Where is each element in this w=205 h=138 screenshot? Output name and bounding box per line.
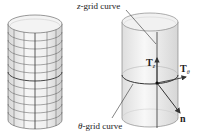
z-grid-curve-text: -grid curve	[81, 1, 121, 11]
ttheta-sub: θ	[187, 69, 190, 75]
tangent-theta-label: Tθ	[180, 64, 190, 75]
diagram-canvas	[0, 0, 205, 138]
tz-sub: z	[153, 63, 155, 69]
normal-label: n	[180, 114, 186, 124]
z-grid-curve-label: z-grid curve	[77, 2, 120, 11]
tz-main: T	[146, 57, 153, 68]
tangent-cylinder	[112, 10, 186, 128]
tangent-z-label: Tz	[146, 58, 155, 69]
grid-cylinder	[8, 15, 62, 129]
theta-grid-curve-text: -grid curve	[82, 121, 122, 131]
ttheta-main: T	[180, 63, 187, 74]
theta-grid-curve-label: θ-grid curve	[78, 122, 122, 131]
